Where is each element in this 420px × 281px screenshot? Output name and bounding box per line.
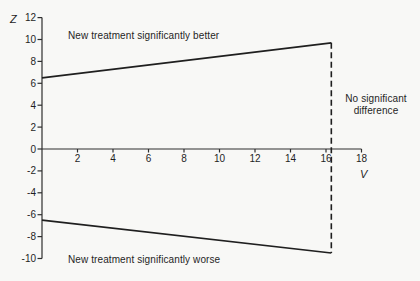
y-tick-label: -4 xyxy=(27,187,36,198)
y-tick-label: -8 xyxy=(27,231,36,242)
annotation-lower-region: New treatment significantly worse xyxy=(68,254,220,265)
x-axis-label: V xyxy=(360,168,369,180)
y-tick-label: 8 xyxy=(30,56,36,67)
y-tick-label: -2 xyxy=(27,165,36,176)
sequential-test-chart: 121086420-2-4-6-8-1024681012141618ZV New… xyxy=(0,0,420,281)
y-tick-label: 4 xyxy=(30,100,36,111)
y-tick-label: 2 xyxy=(30,122,36,133)
y-tick-label: 10 xyxy=(25,34,37,45)
y-tick-label: -6 xyxy=(27,209,36,220)
x-tick-label: 4 xyxy=(110,153,116,164)
x-tick-label: 6 xyxy=(146,153,152,164)
x-tick-label: 12 xyxy=(249,153,261,164)
x-tick-label: 16 xyxy=(320,153,332,164)
x-tick-label: 8 xyxy=(181,153,187,164)
x-tick-label: 14 xyxy=(285,153,297,164)
y-tick-label: -10 xyxy=(22,253,37,264)
y-tick-label: 12 xyxy=(25,12,37,23)
lower-boundary xyxy=(42,220,331,253)
y-tick-label: 0 xyxy=(30,144,36,155)
plot-canvas: 121086420-2-4-6-8-1024681012141618ZV xyxy=(0,0,420,281)
x-tick-label: 2 xyxy=(75,153,81,164)
y-axis-label: Z xyxy=(9,13,18,25)
annotation-upper-region: New treatment significantly better xyxy=(68,30,219,41)
x-tick-label: 18 xyxy=(356,153,368,164)
y-tick-label: 6 xyxy=(30,78,36,89)
x-tick-label: 10 xyxy=(214,153,226,164)
annotation-no-difference: No significant difference xyxy=(342,93,410,117)
upper-boundary xyxy=(42,43,331,78)
